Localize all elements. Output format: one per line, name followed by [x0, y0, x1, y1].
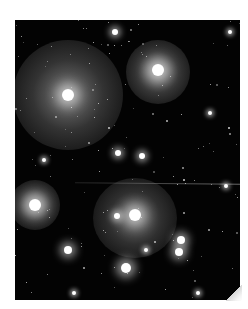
faint-star: [101, 273, 102, 274]
faint-star: [52, 97, 53, 98]
faint-star: [114, 45, 115, 46]
faint-star: [65, 146, 66, 147]
faint-star: [15, 108, 17, 110]
faint-star: [239, 23, 240, 24]
faint-star: [210, 84, 211, 85]
faint-star: [95, 84, 96, 85]
faint-star: [88, 48, 89, 49]
faint-star: [170, 76, 171, 77]
faint-star: [154, 241, 156, 243]
faint-star: [194, 280, 196, 282]
star: [224, 184, 228, 188]
faint-star: [203, 146, 204, 147]
faint-star: [185, 183, 186, 184]
faint-star: [235, 194, 236, 195]
faint-star: [216, 84, 218, 86]
faint-star: [89, 63, 90, 64]
faint-star: [81, 243, 82, 244]
faint-star: [108, 127, 110, 129]
faint-star: [50, 155, 51, 156]
faint-star: [182, 167, 184, 169]
faint-star: [18, 56, 19, 57]
faint-star: [142, 54, 143, 55]
astronomy-photo: [15, 20, 240, 300]
star: [228, 30, 232, 34]
faint-star: [230, 21, 231, 22]
faint-star: [219, 187, 220, 188]
faint-star: [17, 229, 18, 230]
faint-star: [142, 191, 143, 192]
faint-star: [37, 44, 38, 45]
faint-star: [105, 232, 106, 233]
faint-star: [45, 66, 46, 67]
faint-star: [78, 20, 79, 21]
star: [196, 291, 200, 295]
star: [64, 246, 72, 254]
faint-star: [114, 287, 115, 288]
faint-star: [209, 143, 210, 144]
faint-star: [146, 56, 147, 57]
faint-star: [183, 212, 185, 214]
star: [177, 236, 185, 244]
faint-star: [158, 95, 159, 96]
faint-star: [99, 171, 100, 172]
faint-star: [47, 61, 48, 62]
faint-star: [112, 148, 113, 149]
faint-star: [98, 150, 99, 151]
faint-star: [15, 255, 16, 256]
faint-star: [133, 108, 134, 109]
faint-star: [177, 184, 178, 185]
faint-star: [126, 137, 127, 138]
faint-star: [83, 267, 85, 269]
faint-star: [86, 28, 87, 29]
faint-star: [132, 179, 133, 180]
faint-star: [47, 210, 48, 211]
faint-star: [232, 268, 233, 269]
faint-star: [38, 212, 39, 213]
faint-star: [129, 41, 130, 42]
star: [29, 199, 41, 211]
faint-star: [198, 148, 199, 149]
faint-star: [173, 240, 174, 241]
faint-star: [193, 270, 194, 271]
faint-star: [213, 43, 214, 44]
faint-star: [236, 232, 238, 234]
faint-star: [114, 267, 115, 268]
faint-star: [94, 109, 95, 110]
faint-star: [192, 297, 193, 298]
faint-star: [51, 46, 52, 47]
faint-star: [141, 217, 142, 218]
faint-star: [141, 52, 142, 53]
faint-star: [104, 255, 105, 256]
faint-star: [101, 44, 102, 45]
faint-star: [165, 289, 166, 290]
faint-star: [138, 208, 139, 209]
star: [208, 111, 212, 115]
faint-star: [194, 180, 195, 181]
faint-star: [49, 217, 50, 218]
faint-star: [50, 176, 51, 177]
faint-star: [228, 127, 230, 129]
faint-star: [229, 133, 231, 135]
faint-star: [187, 260, 188, 261]
faint-star: [71, 107, 72, 108]
faint-star: [108, 22, 109, 23]
faint-star: [65, 129, 66, 130]
faint-star: [35, 165, 36, 166]
faint-star: [227, 45, 228, 46]
page-curl-corner: [226, 285, 242, 301]
faint-star: [103, 212, 104, 213]
star: [144, 248, 148, 252]
faint-star: [32, 159, 33, 160]
star: [139, 153, 145, 159]
faint-star: [21, 36, 22, 37]
faint-star: [153, 171, 155, 173]
faint-star: [31, 292, 32, 293]
faint-star: [208, 229, 210, 231]
star: [129, 209, 141, 221]
faint-star: [124, 148, 125, 149]
faint-star: [162, 85, 163, 86]
faint-star: [236, 144, 237, 145]
faint-star: [93, 42, 94, 43]
faint-star: [49, 209, 50, 210]
